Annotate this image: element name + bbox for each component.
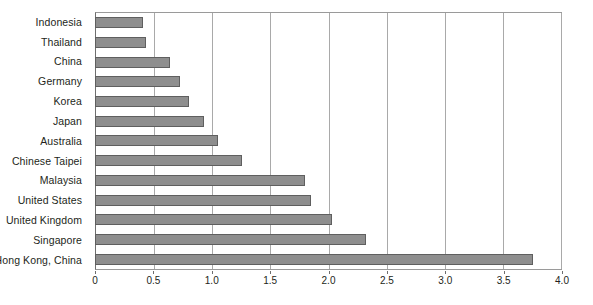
bar (95, 37, 146, 48)
axis-tick-label: 0 (92, 276, 98, 286)
category-label: Thailand (0, 32, 88, 52)
bar (95, 116, 204, 127)
bars-layer (96, 13, 561, 269)
axis-tick-label: 1.0 (205, 276, 219, 286)
category-label: Hong Kong, China (0, 250, 88, 270)
bar (95, 96, 189, 107)
category-label: Singapore (0, 230, 88, 250)
axis-tick-mark (270, 271, 271, 274)
bar-row (96, 210, 561, 230)
bar-chart: IndonesiaThailandChinaGermanyKoreaJapanA… (0, 0, 593, 305)
bar (95, 76, 180, 87)
bar-row (96, 230, 561, 250)
bar (95, 195, 311, 206)
bar (95, 17, 143, 28)
axis-tick-label: 0.5 (146, 276, 160, 286)
bar-row (96, 13, 561, 33)
value-axis: 00.51.01.52.02.53.03.54.0 (95, 271, 562, 293)
category-label: Indonesia (0, 12, 88, 32)
axis-tick-mark (445, 271, 446, 274)
bar-row (96, 33, 561, 53)
axis-tick-label: 2.0 (322, 276, 336, 286)
axis-tick-mark (329, 271, 330, 274)
bar (95, 57, 170, 68)
axis-tick-mark (153, 271, 154, 274)
bar-row (96, 52, 561, 72)
axis-tick-mark (95, 271, 96, 274)
axis-tick-label: 1.5 (263, 276, 277, 286)
bar-row (96, 171, 561, 191)
axis-tick-label: 2.5 (380, 276, 394, 286)
category-label: United States (0, 191, 88, 211)
bar (95, 135, 218, 146)
bar-row (96, 190, 561, 210)
category-label: China (0, 52, 88, 72)
axis-tick-label: 3.5 (497, 276, 511, 286)
category-label: Japan (0, 111, 88, 131)
category-label: Malaysia (0, 171, 88, 191)
plot-area (95, 12, 562, 270)
bar (95, 175, 305, 186)
category-label: United Kingdom (0, 210, 88, 230)
axis-tick-mark (212, 271, 213, 274)
axis-tick-label: 4.0 (555, 276, 569, 286)
bar-row (96, 111, 561, 131)
bar (95, 214, 332, 225)
bar-row (96, 72, 561, 92)
axis-tick-mark (387, 271, 388, 274)
axis-tick-mark (504, 271, 505, 274)
bar (95, 234, 366, 245)
category-label: Chinese Taipei (0, 151, 88, 171)
bar-row (96, 151, 561, 171)
axis-tick-label: 3.0 (438, 276, 452, 286)
category-label: Australia (0, 131, 88, 151)
category-label: Germany (0, 72, 88, 92)
gridline (561, 13, 562, 269)
bar-row (96, 249, 561, 269)
category-label: Korea (0, 91, 88, 111)
category-axis: IndonesiaThailandChinaGermanyKoreaJapanA… (0, 12, 88, 270)
bar-row (96, 131, 561, 151)
bar (95, 155, 242, 166)
axis-tick-mark (562, 271, 563, 274)
bar (95, 254, 533, 265)
bar-row (96, 92, 561, 112)
